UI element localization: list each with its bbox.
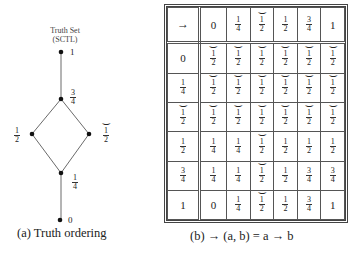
table-row: 12141412121212 [168, 132, 345, 161]
table-row: 12121212121212 [168, 103, 345, 132]
table-cell: 12 [226, 73, 250, 102]
table-cell: 12 [321, 43, 345, 74]
row-header: 1 [168, 190, 200, 219]
table-cell: 14 [226, 132, 250, 161]
table-cell: 12 [200, 103, 227, 132]
table-cell: 14 [226, 161, 250, 190]
column-header: 0 [200, 8, 227, 43]
table-cell: 12 [250, 161, 274, 190]
table-cell: 12 [274, 190, 298, 219]
table-cell: 12 [250, 103, 274, 132]
table-cell: 12 [297, 43, 321, 74]
table-cell: 12 [200, 73, 227, 102]
table-cell: 34 [297, 190, 321, 219]
node-label-1-2: 12 [14, 127, 20, 144]
table-cell: 12 [274, 103, 298, 132]
column-header: 12 [274, 8, 298, 43]
table-cell: 14 [200, 132, 227, 161]
table-cell: 12 [297, 132, 321, 161]
node-label-1-4: 14 [72, 174, 78, 191]
table-cell: 12 [274, 132, 298, 161]
row-header: 12 [168, 132, 200, 161]
table-cell: 14 [226, 190, 250, 219]
table-row: 10141212341 [168, 190, 345, 219]
table-cell: 12 [226, 103, 250, 132]
column-header: 34 [297, 8, 321, 43]
table-cell: 12 [274, 43, 298, 74]
table-cell: 12 [226, 43, 250, 74]
caption-b: (b) → (a, b) = a → b [190, 229, 294, 244]
table-cell: 12 [250, 73, 274, 102]
table-cell: 12 [250, 43, 274, 74]
table-cell: 12 [297, 103, 321, 132]
table-cell: 34 [321, 161, 345, 190]
implication-table: →014121234101212121212121412121212121212… [164, 4, 348, 223]
table-cell: 14 [200, 161, 227, 190]
row-header: 14 [168, 73, 200, 102]
table-cell: 12 [321, 103, 345, 132]
table-cell: 12 [274, 73, 298, 102]
table-row: 14121212121212 [168, 73, 345, 102]
table-cell: 12 [250, 190, 274, 219]
node-label-3-4: 34 [70, 89, 76, 106]
node-label-0: 0 [68, 215, 73, 225]
table-row: 0121212121212 [168, 43, 345, 74]
table-cell: 12 [274, 161, 298, 190]
corner-cell: → [168, 8, 200, 43]
node-label-hat-1-2: 12 [103, 127, 109, 144]
table-cell: 1 [321, 190, 345, 219]
table-cell: 12 [297, 73, 321, 102]
table-cell: 0 [200, 190, 227, 219]
table-header-row: →0141212341 [168, 8, 345, 43]
column-header: 14 [226, 8, 250, 43]
table-cell: 12 [321, 73, 345, 102]
table-cell: 12 [321, 132, 345, 161]
table-cell: 12 [250, 132, 274, 161]
row-header: 0 [168, 43, 200, 74]
caption-a: (a) Truth ordering [17, 226, 107, 241]
table-row: 34141412123434 [168, 161, 345, 190]
row-header: 12 [168, 103, 200, 132]
truth-ordering-panel: Truth Set (SCTL) 1 34 12 12 14 0 (a) Tru… [0, 0, 160, 256]
row-header: 34 [168, 161, 200, 190]
column-header: 12 [250, 8, 274, 43]
node-label-1: 1 [70, 47, 75, 57]
lattice-diagram [0, 0, 160, 256]
table-cell: 34 [297, 161, 321, 190]
column-header: 1 [321, 8, 345, 43]
table-cell: 12 [200, 43, 227, 74]
